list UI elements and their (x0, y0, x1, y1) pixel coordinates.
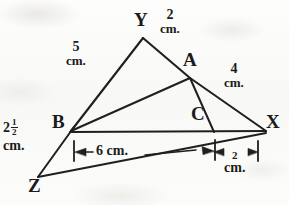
measure-label-cx-baseline: 2 cm. (224, 150, 245, 175)
measure-ya-unit: cm. (160, 22, 180, 35)
vertex-label-z: Z (28, 176, 41, 195)
measure-cx-unit: cm. (224, 161, 245, 175)
figure-canvas: Y A B C X Z 2 cm. 5 cm. 4 cm. 212 cm. 6 … (0, 0, 289, 205)
segment-b-x (70, 131, 266, 132)
measure-label-ax: 4 cm. (224, 62, 244, 89)
measure-yb-number: 5 (66, 40, 86, 54)
vertex-label-a: A (183, 50, 197, 69)
measure-bz-fraction-denominator: 2 (11, 127, 18, 137)
measure-yb-unit: cm. (66, 54, 86, 67)
measure-bz-fraction-numerator: 1 (11, 118, 18, 127)
dim-2cm-right-arrowhead (248, 148, 258, 155)
dim-6cm-right-arrowhead (202, 147, 214, 155)
vertex-label-b: B (52, 112, 65, 131)
triangle-diagram-drawing (0, 0, 289, 205)
measure-bc-number: 6 (96, 143, 103, 158)
measure-bc-unit: cm. (107, 143, 128, 158)
measure-ax-unit: cm. (224, 76, 244, 89)
measure-label-bz: 212 cm. (3, 118, 24, 153)
measure-bz-fraction: 12 (11, 118, 18, 137)
measure-label-yb: 5 cm. (66, 40, 86, 67)
vertex-label-y: Y (134, 10, 148, 29)
measure-label-ya: 2 cm. (160, 8, 180, 35)
measure-bz-unit: cm. (3, 139, 24, 153)
segment-b-a (71, 78, 190, 131)
measure-bz-number: 2 (3, 120, 10, 135)
measure-ax-number: 4 (224, 62, 244, 76)
measure-ya-number: 2 (160, 8, 180, 22)
segment-b-z (38, 127, 74, 177)
vertex-label-c: C (191, 104, 205, 123)
measure-label-bc-baseline: 6 cm. (96, 144, 128, 158)
vertex-label-x: X (266, 112, 280, 131)
